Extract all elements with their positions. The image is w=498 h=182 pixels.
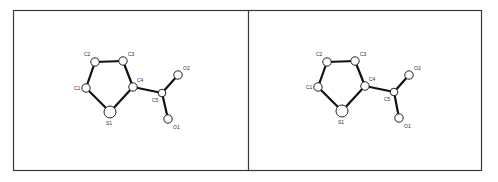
atom-label-c4: C4 bbox=[369, 76, 376, 82]
atom-c3 bbox=[119, 57, 127, 65]
atom-s1 bbox=[104, 106, 116, 118]
left-stereo-panel: C1C2C3C4S1C5O2O1 bbox=[74, 51, 190, 130]
atom-label-c5: C5 bbox=[152, 97, 159, 103]
right-stereo-panel: C1C2C3C4S1C5O2O1 bbox=[306, 51, 421, 129]
atom-label-s1: S1 bbox=[106, 120, 112, 126]
atom-label-c3: C3 bbox=[128, 51, 135, 57]
atom-c2 bbox=[323, 58, 331, 66]
atom-label-o1: O1 bbox=[173, 124, 180, 130]
atom-label-s1: S1 bbox=[338, 119, 344, 125]
atom-label-c5: C5 bbox=[384, 96, 391, 102]
stereo-diagram: C1C2C3C4S1C5O2O1 C1C2C3C4S1C5O2O1 bbox=[0, 0, 498, 182]
atom-label-c1: C1 bbox=[74, 85, 81, 91]
atom-o1 bbox=[395, 114, 403, 122]
atom-label-c4: C4 bbox=[137, 77, 144, 83]
atom-o2 bbox=[174, 71, 182, 79]
atom-label-o2: O2 bbox=[183, 65, 190, 71]
atom-c1 bbox=[82, 84, 90, 92]
atom-c4 bbox=[129, 83, 137, 91]
atom-label-o2: O2 bbox=[414, 65, 421, 71]
atom-label-c1: C1 bbox=[306, 84, 313, 90]
atom-c1 bbox=[314, 83, 322, 91]
atom-c2 bbox=[91, 58, 99, 66]
atom-label-c2: C2 bbox=[316, 51, 323, 57]
atom-label-o1: O1 bbox=[404, 123, 411, 129]
atom-c5 bbox=[390, 88, 398, 96]
atom-c4 bbox=[361, 82, 369, 90]
atom-o2 bbox=[405, 71, 413, 79]
atom-c3 bbox=[351, 57, 359, 65]
atom-label-c3: C3 bbox=[360, 51, 367, 57]
atom-s1 bbox=[336, 105, 348, 117]
atom-o1 bbox=[164, 115, 172, 123]
atom-label-c2: C2 bbox=[84, 51, 91, 57]
atom-c5 bbox=[158, 89, 166, 97]
